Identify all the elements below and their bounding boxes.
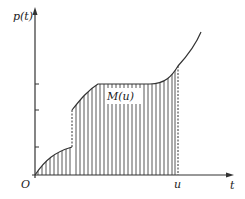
area-label: M(u) (106, 90, 134, 103)
upper-limit-label: u (174, 178, 181, 191)
y-axis-arrow-icon (33, 7, 38, 15)
hatched-area (38, 40, 175, 175)
diagram-canvas: p(t) O u t M(u) (0, 0, 245, 199)
origin-label: O (21, 178, 30, 191)
y-axis-label: p(t) (13, 10, 33, 23)
x-axis-arrow-icon (226, 173, 234, 178)
x-axis-label: t (230, 179, 235, 192)
